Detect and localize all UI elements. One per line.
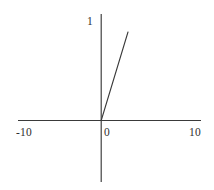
x-axis-tick-label-max: 10 (189, 126, 201, 138)
plot-canvas (0, 0, 214, 190)
data-series-ramp (101, 32, 128, 121)
x-axis-tick-label-min: -10 (16, 126, 32, 138)
x-axis-tick-label-origin: 0 (104, 126, 110, 138)
y-axis-tick-label-max: 1 (87, 15, 93, 27)
plot-figure: -10 0 10 1 (0, 0, 214, 190)
